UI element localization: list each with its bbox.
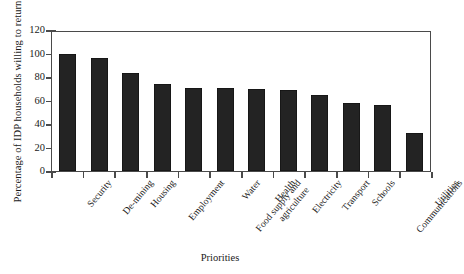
bar-series (52, 32, 430, 171)
bar-slot (241, 32, 273, 171)
x-axis-category-label: Schools (370, 178, 398, 208)
x-axis-category-label: De-mining (120, 178, 155, 217)
x-axis-tick (431, 172, 433, 178)
y-axis-tick-label: 40 (7, 118, 45, 129)
bar (248, 89, 265, 171)
bar-slot (399, 32, 431, 171)
x-axis-category-label: Employment (187, 178, 227, 223)
bar-slot (210, 32, 242, 171)
bar-slot (304, 32, 336, 171)
bar-slot (367, 32, 399, 171)
bar (217, 88, 234, 171)
y-axis-tick-label: 80 (7, 71, 45, 82)
x-axis-category-label: Water (240, 178, 263, 202)
bar-slot (115, 32, 147, 171)
bar (185, 88, 202, 171)
y-axis-tick-label: 120 (7, 24, 45, 35)
bar-slot (336, 32, 368, 171)
bar (406, 133, 423, 171)
bar (343, 103, 360, 171)
bar-slot (178, 32, 210, 171)
bar-slot (84, 32, 116, 171)
bar (122, 73, 139, 171)
x-axis-category-label: Security (85, 178, 114, 209)
plot-area (51, 31, 431, 172)
y-axis-tick-label: 100 (7, 48, 45, 59)
y-axis-tick-label: 60 (7, 95, 45, 106)
x-axis-category-label: Electricity (310, 178, 344, 215)
bar (374, 105, 391, 171)
x-axis-title: Priorities (0, 252, 440, 263)
y-axis-tick-label: 20 (7, 142, 45, 153)
bar-slot (273, 32, 305, 171)
x-axis-tick-labels: SecurityDe-miningHousingEmploymentFood s… (51, 178, 431, 244)
bar-slot (147, 32, 179, 171)
bar (59, 54, 76, 172)
bar (91, 58, 108, 171)
bar (154, 84, 171, 171)
bar (280, 90, 297, 171)
bar (311, 95, 328, 171)
x-axis-category-label: Transport (340, 178, 372, 213)
bar-slot (52, 32, 84, 171)
y-axis-tick-label: 0 (7, 165, 45, 176)
